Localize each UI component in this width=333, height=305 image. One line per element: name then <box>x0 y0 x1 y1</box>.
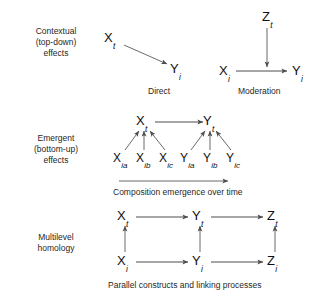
panel-label-emergent: Emergent (bottom-up) effects <box>8 133 104 166</box>
panel-label-emergent-line3: effects <box>8 155 104 166</box>
panel-label-homology-line1: Multilevel <box>8 232 104 243</box>
node-emergent-yib: Yib <box>203 152 217 165</box>
node-emergent-yt: Yt <box>203 114 214 127</box>
panel-label-homology: Multilevel homology <box>8 232 104 254</box>
caption-parallel-constructs: Parallel constructs and linking processe… <box>108 280 262 290</box>
node-emergent-xia: Xia <box>113 152 127 165</box>
node-homology-yt: Yt <box>192 209 203 222</box>
panel-label-homology-line2: homology <box>8 243 104 254</box>
node-homology-zi: Zi <box>267 254 277 267</box>
panel-label-emergent-line1: Emergent <box>8 133 104 144</box>
node-homology-zt: Zt <box>267 209 277 222</box>
caption-direct: Direct <box>148 86 170 96</box>
node-contextual-moderator-z: Zt <box>262 10 272 23</box>
node-contextual-moderation-x: Xi <box>219 64 230 77</box>
node-emergent-yia: Yia <box>180 152 194 165</box>
panel-label-contextual-line1: Contextual <box>8 26 104 37</box>
node-homology-xt: Xt <box>117 209 128 222</box>
panel-label-contextual: Contextual (top-down) effects <box>8 26 104 59</box>
node-contextual-direct-y: Yi <box>170 62 181 75</box>
panel-label-contextual-line3: effects <box>8 48 104 59</box>
node-homology-xi: Xi <box>117 254 128 267</box>
caption-moderation: Moderation <box>238 86 281 96</box>
node-emergent-xic: Xic <box>159 152 173 165</box>
node-contextual-moderation-y: Yi <box>292 64 303 77</box>
panel-label-emergent-line2: (bottom-up) <box>8 144 104 155</box>
node-emergent-xt: Xt <box>136 114 147 127</box>
node-emergent-yic: Yic <box>226 152 240 165</box>
node-emergent-xib: Xib <box>136 152 150 165</box>
node-contextual-direct-x: Xt <box>104 31 115 44</box>
panel-label-contextual-line2: (top-down) <box>8 37 104 48</box>
multilevel-theory-figure: Contextual (top-down) effects Xt Yi Zt X… <box>0 0 333 305</box>
caption-composition-emergence: Composition emergence over time <box>113 187 242 197</box>
node-homology-yi: Yi <box>192 254 203 267</box>
